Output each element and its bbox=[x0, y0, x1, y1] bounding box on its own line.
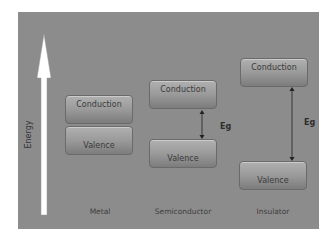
energy-arrow-icon bbox=[36, 34, 52, 217]
band-label: Valence bbox=[150, 154, 216, 163]
insulator-valence-band: Valence bbox=[239, 161, 307, 190]
metal-valence-band: Valence bbox=[65, 126, 133, 155]
band-label: Conduction bbox=[66, 100, 132, 109]
band-label: Conduction bbox=[150, 85, 216, 94]
metal-conduction-band: Conduction bbox=[65, 95, 133, 124]
band-label: Valence bbox=[240, 176, 306, 185]
band-label: Valence bbox=[66, 141, 132, 150]
band-label: Conduction bbox=[241, 63, 307, 72]
insulator-conduction-band: Conduction bbox=[240, 58, 308, 87]
diagram-panel bbox=[18, 12, 319, 229]
category-label-insulator: Insulator bbox=[233, 207, 313, 216]
insulator-gap-label: Eg bbox=[304, 118, 315, 127]
category-label-semiconductor: Semiconductor bbox=[143, 207, 223, 216]
category-label-metal: Metal bbox=[60, 207, 140, 216]
energy-axis-label: Energy bbox=[24, 115, 33, 155]
semiconductor-gap-arrow-icon bbox=[199, 110, 205, 139]
semiconductor-gap-label: Eg bbox=[220, 122, 231, 131]
insulator-gap-arrow-icon bbox=[289, 87, 295, 161]
semiconductor-conduction-band: Conduction bbox=[149, 80, 217, 109]
semiconductor-valence-band: Valence bbox=[149, 139, 217, 168]
